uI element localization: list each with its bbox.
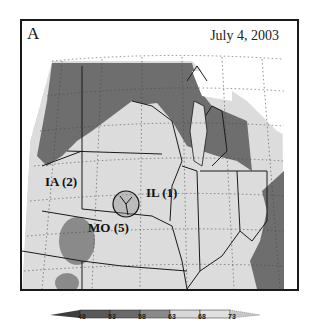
date-label: July 4, 2003	[210, 28, 279, 44]
outside-area-east	[284, 141, 297, 289]
state-label-il: IL (1)	[146, 185, 177, 201]
map-panel: A July 4, 2003 IA (2) IL (1) MO (5)	[20, 19, 299, 291]
colorbar-tick-48: 48	[78, 313, 86, 320]
colorbar-tick-53: 53	[108, 313, 116, 320]
state-label-ia: IA (2)	[45, 174, 77, 190]
colorbar-tick-63: 63	[168, 313, 176, 320]
map-graphic	[22, 21, 297, 289]
colorbar-tick-73: 73	[228, 313, 236, 320]
colorbar-tick-58: 58	[138, 313, 146, 320]
state-label-mo: MO (5)	[88, 220, 129, 236]
colorbar-tick-68: 68	[198, 313, 206, 320]
colorbar-extend-low	[50, 310, 80, 318]
panel-label: A	[27, 24, 39, 44]
